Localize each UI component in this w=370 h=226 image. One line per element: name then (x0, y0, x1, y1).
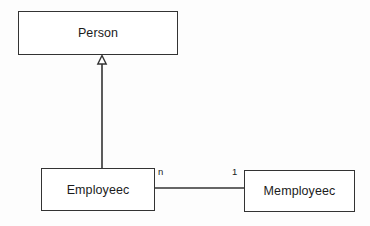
association-source-multiplicity-label: n (158, 166, 163, 177)
class-box-person[interactable]: Person (18, 11, 178, 55)
class-name-employeec: Employeec (67, 183, 130, 197)
class-box-memployeec[interactable]: Memployeec (244, 170, 355, 212)
uml-class-diagram: Person Employeec Memployeec n 1 (0, 0, 370, 226)
class-name-person: Person (78, 26, 118, 40)
class-name-memployeec: Memployeec (264, 184, 336, 198)
class-box-employeec[interactable]: Employeec (41, 168, 155, 211)
association-target-multiplicity-label: 1 (232, 166, 237, 177)
generalization-hollow-triangle-arrowhead (98, 56, 106, 65)
